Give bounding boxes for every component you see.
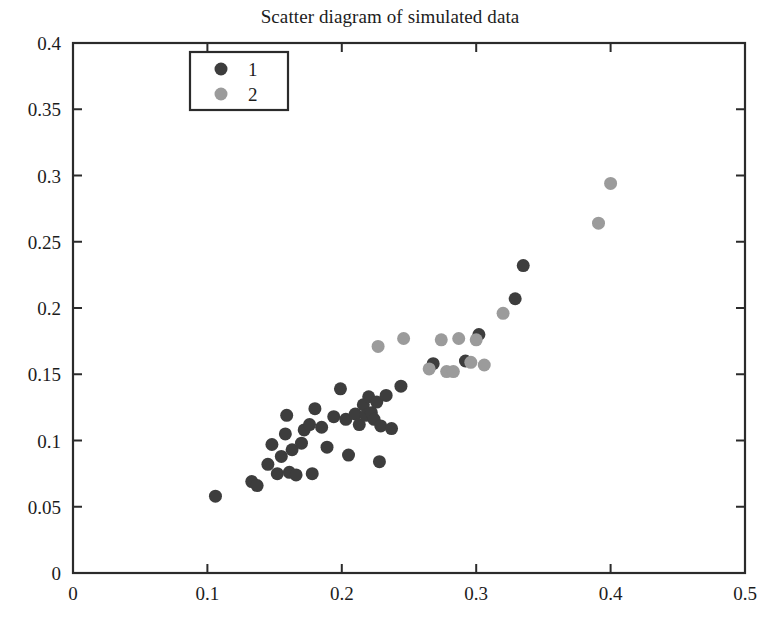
data-point (372, 340, 385, 353)
data-point (509, 292, 522, 305)
data-point (373, 455, 386, 468)
data-point (209, 490, 222, 503)
data-point (397, 332, 410, 345)
data-point (423, 362, 436, 375)
data-point (261, 458, 274, 471)
y-axis-tick-label: 0.1 (37, 431, 61, 452)
legend-box (190, 52, 288, 110)
legend-label: 1 (248, 59, 258, 80)
y-axis-tick-label: 0.3 (37, 166, 61, 187)
data-point (517, 259, 530, 272)
data-point (447, 365, 460, 378)
data-point (280, 409, 293, 422)
data-point (315, 421, 328, 434)
data-point (478, 358, 491, 371)
y-axis-tick-label: 0.2 (37, 298, 61, 319)
y-axis-tick-label: 0.25 (28, 232, 61, 253)
data-point (295, 437, 308, 450)
data-point (497, 307, 510, 320)
data-point (385, 422, 398, 435)
x-axis-tick-label: 0.3 (464, 583, 488, 604)
scatter-chart-figure: Scatter diagram of simulated data 00.10.… (0, 0, 780, 634)
y-axis-tick-label: 0.4 (37, 33, 61, 54)
data-point (380, 389, 393, 402)
legend-marker (215, 88, 228, 101)
x-axis-tick-label: 0.4 (599, 583, 623, 604)
data-point (303, 418, 316, 431)
legend-label: 2 (248, 84, 258, 105)
legend-marker (215, 63, 228, 76)
series-1-points (209, 259, 530, 503)
data-point (435, 333, 448, 346)
y-axis-tick-label: 0 (52, 563, 62, 584)
legend: 12 (190, 52, 288, 110)
data-point (342, 449, 355, 462)
data-point (604, 177, 617, 190)
y-axis-tick-label: 0.15 (28, 364, 61, 385)
y-axis-tick-label: 0.35 (28, 99, 61, 120)
plot-canvas: 00.10.20.30.40.500.050.10.150.20.250.30.… (0, 0, 780, 634)
data-point (592, 217, 605, 230)
y-axis-tick-label: 0.05 (28, 497, 61, 518)
data-point (394, 380, 407, 393)
x-axis-tick-label: 0.2 (330, 583, 354, 604)
data-point (251, 479, 264, 492)
x-axis-tick-label: 0 (68, 583, 78, 604)
plot-frame (73, 43, 745, 573)
data-point (271, 467, 284, 480)
data-point (279, 427, 292, 440)
data-point (334, 382, 347, 395)
data-point (321, 441, 334, 454)
x-axis-tick-label: 0.1 (196, 583, 220, 604)
data-point (265, 438, 278, 451)
data-point (290, 468, 303, 481)
data-point (452, 332, 465, 345)
data-point (308, 402, 321, 415)
data-point (470, 333, 483, 346)
data-point (306, 467, 319, 480)
data-point (327, 410, 340, 423)
data-point (275, 450, 288, 463)
x-axis-tick-label: 0.5 (733, 583, 757, 604)
series-2-points (372, 177, 618, 378)
data-point (464, 356, 477, 369)
